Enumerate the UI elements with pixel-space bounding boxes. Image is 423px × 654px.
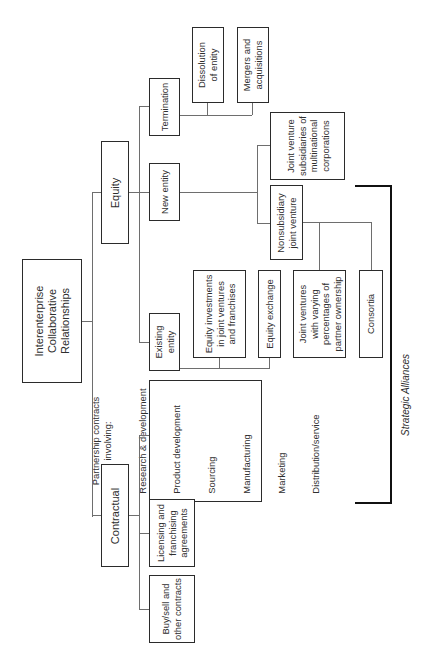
connector bbox=[257, 223, 270, 224]
strategic-alliances-bracket-top bbox=[355, 185, 392, 187]
partnership-contracts-label: Partnership contracts involving: Researc… bbox=[66, 388, 344, 493]
dissolution-node: Dissolution of entity bbox=[192, 27, 224, 103]
partnership-item-sourcing: Sourcing bbox=[206, 388, 218, 493]
consortia-label: Consortia bbox=[365, 294, 377, 334]
connector bbox=[180, 368, 270, 369]
connector bbox=[252, 103, 253, 115]
connector bbox=[139, 106, 149, 107]
partnership-item-manufacturing: Manufacturing bbox=[240, 388, 252, 493]
root-label: Interenterprise Collaborative Relationsh… bbox=[33, 286, 72, 357]
jv-subsidiaries-node: Joint venture subsidiaries of multinatio… bbox=[270, 112, 345, 180]
consortia-node: Consortia bbox=[359, 270, 383, 358]
mergers-label: Mergers and acquisitions bbox=[241, 39, 264, 92]
equity-investments-node: Equity investments in joint ventures and… bbox=[193, 270, 246, 358]
partnership-contracts-node: Partnership contracts involving: Researc… bbox=[149, 380, 262, 502]
connector bbox=[269, 358, 270, 368]
connector bbox=[180, 115, 252, 116]
equity-investments-label: Equity investments in joint ventures and… bbox=[202, 275, 237, 354]
new-entity-node: New entity bbox=[149, 163, 180, 221]
connector bbox=[139, 106, 140, 342]
connector bbox=[92, 192, 101, 193]
mergers-node: Mergers and acquisitions bbox=[237, 27, 269, 103]
connector bbox=[82, 321, 92, 322]
existing-entity-node: Existing entity bbox=[149, 313, 180, 371]
connector bbox=[219, 358, 220, 368]
equity-exchange-label: Equity exchange bbox=[264, 279, 276, 348]
jv-subsidiaries-label: Joint venture subsidiaries of multinatio… bbox=[284, 116, 330, 176]
connector bbox=[139, 192, 149, 193]
connector bbox=[303, 222, 371, 223]
root-node: Interenterprise Collaborative Relationsh… bbox=[22, 259, 82, 383]
termination-label: Termination bbox=[159, 83, 171, 131]
connector bbox=[257, 145, 258, 223]
new-entity-label: New entity bbox=[159, 170, 171, 214]
nonsubsidiary-jv-node: Nonsubsidiary joint venture bbox=[270, 185, 303, 260]
connector bbox=[139, 609, 149, 610]
connector bbox=[257, 145, 270, 146]
nonsubsidiary-jv-label: Nonsubsidiary joint venture bbox=[275, 193, 298, 252]
connector bbox=[319, 222, 320, 270]
strategic-alliances-label: Strategic Alliances bbox=[400, 354, 411, 436]
strategic-alliances-bracket-spine bbox=[390, 185, 392, 504]
contractual-label: Contractual bbox=[109, 487, 122, 543]
partnership-heading: Partnership contracts involving: bbox=[90, 388, 113, 493]
connector bbox=[92, 192, 93, 517]
connector bbox=[139, 435, 140, 610]
equity-label: Equity bbox=[109, 177, 122, 208]
varying-ownership-jv-node: Joint ventures with varying percentages … bbox=[293, 270, 346, 358]
connector bbox=[129, 192, 139, 193]
connector bbox=[207, 103, 208, 115]
dissolution-label: Dissolution of entity bbox=[196, 42, 219, 88]
connector bbox=[139, 435, 149, 436]
connector bbox=[139, 342, 149, 343]
licensing-node: Licensing and franchising agreements bbox=[149, 499, 195, 567]
connector bbox=[139, 533, 149, 534]
licensing-label: Licensing and franchising agreements bbox=[155, 504, 190, 562]
termination-node: Termination bbox=[149, 78, 180, 136]
existing-entity-label: Existing entity bbox=[153, 326, 176, 359]
connector bbox=[371, 222, 372, 270]
buy-sell-node: Buy/sell and other contracts bbox=[149, 575, 195, 643]
equity-exchange-node: Equity exchange bbox=[258, 270, 281, 358]
connector bbox=[92, 515, 101, 516]
varying-ownership-jv-label: Joint ventures with varying percentages … bbox=[296, 276, 342, 351]
partnership-item-marketing: Marketing bbox=[275, 388, 287, 493]
equity-node: Equity bbox=[101, 141, 129, 244]
connector bbox=[180, 192, 257, 193]
partnership-item-distribution: Distribution/service bbox=[310, 388, 322, 493]
partnership-item-rd: Research & development bbox=[136, 388, 148, 493]
buy-sell-label: Buy/sell and other contracts bbox=[160, 578, 183, 640]
partnership-item-product-dev: Product development bbox=[171, 388, 183, 493]
connector bbox=[129, 515, 139, 516]
strategic-alliances-bracket-bottom bbox=[355, 502, 392, 504]
